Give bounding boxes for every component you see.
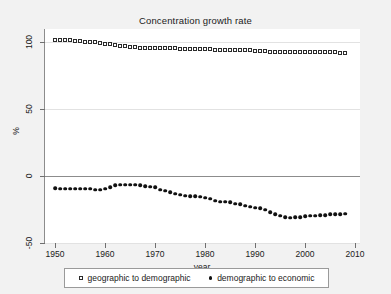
data-point-series-2 [103,187,107,191]
chart-figure: Concentration growth rate % -50050100195… [0,0,391,294]
x-axis-tick-label: 1980 [196,249,215,259]
hollow-square-marker-icon [79,276,83,280]
data-point-series-2 [293,215,297,219]
data-point-series-1 [193,47,197,51]
data-point-series-1 [83,40,87,44]
data-point-series-2 [258,206,262,210]
data-point-series-1 [338,51,342,55]
x-axis-tick [155,243,156,248]
data-point-series-1 [188,47,192,51]
data-point-series-1 [228,48,232,52]
data-point-series-1 [68,38,72,42]
data-point-series-1 [263,49,267,53]
y-axis-tick [40,176,45,177]
data-point-series-2 [248,205,252,209]
plot-area: -500501001950196019701980199020002010 [44,29,360,244]
data-point-series-2 [243,204,247,208]
data-point-series-2 [158,188,162,192]
data-point-series-1 [113,43,117,47]
data-point-series-2 [188,194,192,198]
data-point-series-2 [303,214,307,218]
data-point-series-1 [198,47,202,51]
data-point-series-1 [248,48,252,52]
data-point-series-1 [318,50,322,54]
data-point-series-2 [83,187,87,191]
legend-item-label: geographic to demographic [88,273,191,283]
data-point-series-2 [78,187,82,191]
data-point-series-1 [208,47,212,51]
data-point-series-2 [213,199,217,203]
data-point-series-1 [258,49,262,53]
data-point-series-1 [178,47,182,51]
y-gridline [45,109,360,110]
data-point-series-1 [103,42,107,46]
data-point-series-1 [78,39,82,43]
data-point-series-1 [328,50,332,54]
data-point-series-2 [68,187,72,191]
data-point-series-2 [218,200,222,204]
data-point-series-2 [73,187,77,191]
data-point-series-1 [223,48,227,52]
data-point-series-1 [148,46,152,50]
data-point-series-2 [128,183,132,187]
data-point-series-2 [63,187,67,191]
x-axis-tick [255,243,256,248]
data-point-series-2 [143,184,147,188]
data-point-series-2 [168,190,172,194]
data-point-series-2 [208,197,212,201]
data-point-series-1 [288,50,292,54]
data-point-series-1 [163,46,167,50]
y-axis-tick-label: 100 [24,35,34,49]
x-axis-tick [355,243,356,248]
data-point-series-2 [298,215,302,219]
data-point-series-1 [253,49,257,53]
chart-title: Concentration growth rate [0,15,391,26]
data-point-series-1 [128,45,132,49]
x-axis-tick-label: 1950 [46,249,65,259]
data-point-series-1 [293,50,297,54]
data-point-series-2 [198,195,202,199]
data-point-series-1 [298,50,302,54]
data-point-series-1 [53,38,57,42]
data-point-series-2 [288,216,292,220]
data-point-series-1 [308,50,312,54]
data-point-series-2 [278,214,282,218]
data-point-series-1 [213,48,217,52]
data-point-series-2 [123,183,127,187]
data-point-series-2 [183,194,187,198]
data-point-series-2 [268,210,272,214]
data-point-series-2 [238,202,242,206]
x-axis-tick [205,243,206,248]
y-axis-tick [40,109,45,110]
data-point-series-1 [58,38,62,42]
data-point-series-2 [308,214,312,218]
zero-line [45,176,360,177]
data-point-series-2 [138,184,142,188]
data-point-series-1 [313,50,317,54]
data-point-series-1 [233,48,237,52]
chart-legend: geographic to demographicdemographic to … [64,268,329,288]
data-point-series-2 [163,189,167,193]
data-point-series-1 [138,46,142,50]
y-axis-tick-label: -50 [24,237,34,249]
data-point-series-2 [233,202,237,206]
data-point-series-2 [93,188,97,192]
data-point-series-2 [333,212,337,216]
data-point-series-1 [303,50,307,54]
legend-item-2[interactable]: demographic to economic [209,273,315,283]
data-point-series-2 [148,185,152,189]
legend-item-label: demographic to economic [217,273,314,283]
legend-item-1[interactable]: geographic to demographic [79,273,191,283]
data-point-series-1 [73,39,77,43]
data-point-series-1 [158,46,162,50]
data-point-series-2 [108,186,112,190]
data-point-series-2 [323,213,327,217]
data-point-series-2 [58,187,62,191]
data-point-series-2 [223,200,227,204]
data-point-series-1 [123,44,127,48]
data-point-series-2 [178,193,182,197]
data-point-series-2 [203,196,207,200]
data-point-series-1 [278,50,282,54]
data-point-series-1 [243,48,247,52]
data-point-series-1 [343,51,347,55]
